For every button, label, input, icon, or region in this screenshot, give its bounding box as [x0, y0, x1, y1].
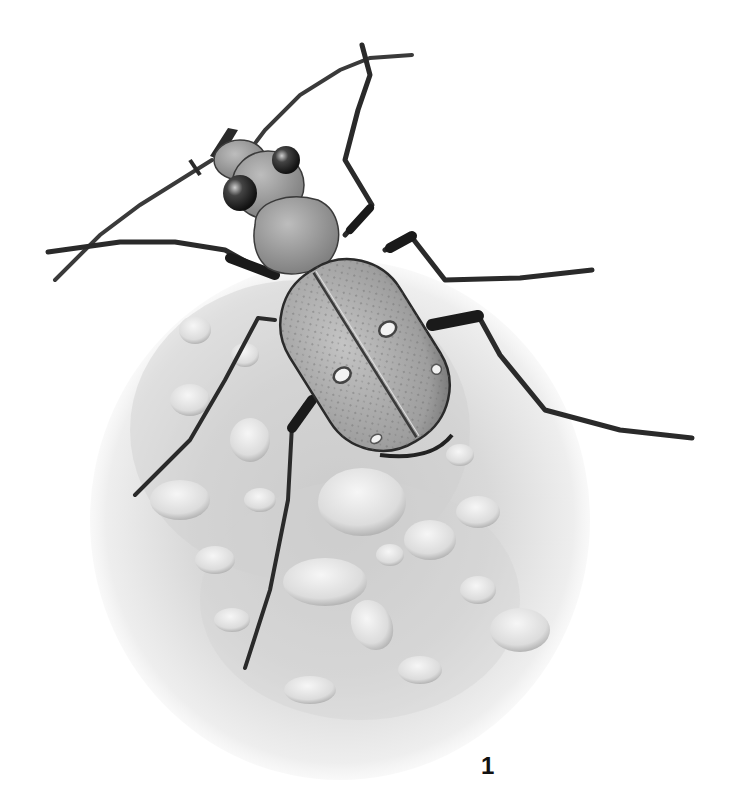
figure-number: 1 — [481, 752, 494, 780]
eye-left — [223, 175, 257, 211]
beetle-illustration — [0, 0, 746, 792]
eye-right — [272, 146, 300, 174]
